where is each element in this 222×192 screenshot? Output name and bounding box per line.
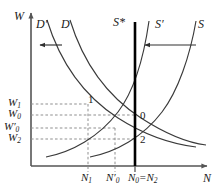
curve-s-prime xyxy=(46,21,149,157)
point-label-1: 1 xyxy=(88,94,94,105)
curve-label-s-star: S* xyxy=(113,16,125,28)
curve-d xyxy=(70,20,206,145)
x-tick-label-n0-n2: N0=N2 xyxy=(128,172,158,183)
point-label-0: 0 xyxy=(140,110,146,121)
guide-lines xyxy=(31,104,135,172)
axis-lines xyxy=(31,13,207,166)
figure-canvas xyxy=(0,0,222,192)
curve-label-s-prime: S′ xyxy=(155,18,164,30)
curve-label-s: S xyxy=(198,18,204,30)
economics-supply-demand-figure: D′ D S* S′ S W N W1 W0 W′0 W2 N1 N′0 N0=… xyxy=(0,0,222,192)
x-tick-label-n0-prime: N′0 xyxy=(106,172,119,183)
x-axis-label: N xyxy=(203,172,211,184)
supply-curves xyxy=(46,21,196,166)
curve-label-d: D xyxy=(61,18,70,30)
curve-d-prime xyxy=(47,20,196,147)
y-tick-label-w0: W0 xyxy=(8,108,21,119)
curve-label-d-prime: D′ xyxy=(36,18,47,30)
y-tick-label-w2: W2 xyxy=(8,132,21,143)
y-axis-label: W xyxy=(14,10,24,22)
x-tick-label-n1: N1 xyxy=(81,172,92,183)
point-label-2: 2 xyxy=(140,134,146,145)
